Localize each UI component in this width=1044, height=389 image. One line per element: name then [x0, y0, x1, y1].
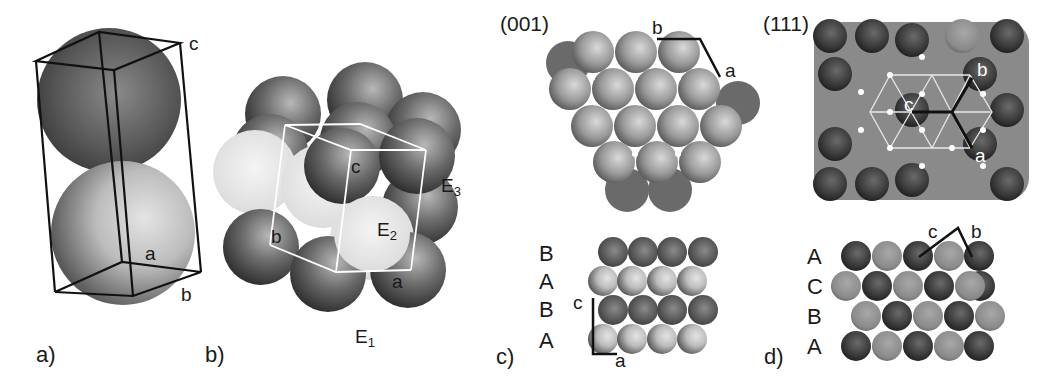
panel-b-face-e1: E1 [355, 327, 375, 352]
panel-c-plane-label: (001) [500, 13, 549, 35]
panel-c-side-spheres [588, 237, 718, 354]
panel-c-stack-2: A [539, 271, 554, 293]
panel-b-spheres [213, 62, 461, 312]
panel-c-001-spheres [546, 31, 760, 212]
panel-d-axis-c: c [904, 95, 914, 114]
panel-label-b: b) [205, 344, 225, 366]
panel-label-c: c) [496, 346, 514, 368]
panel-b-face-e3: E3 [441, 176, 461, 201]
panel-d-stack-4: A [807, 336, 822, 358]
panel-c-stack-1: B [539, 243, 554, 265]
panel-label-d: d) [764, 346, 784, 368]
panel-c-side-axis-c: c [573, 293, 583, 312]
panel-d-stack-3: B [807, 306, 822, 328]
panel-c-axis-a: a [725, 61, 736, 80]
panel-c-stack-4: A [539, 330, 554, 352]
panel-d-side-axis-b: b [971, 222, 982, 241]
panel-d-side-axis-c: c [928, 222, 938, 241]
panel-d-axis-a: a [975, 146, 986, 165]
panel-a-axis-c: c [189, 34, 199, 53]
panel-d-side-spheres [831, 241, 1005, 361]
panel-c-stack-3: B [539, 299, 554, 321]
panel-d-111-spheres [813, 19, 1029, 201]
panel-d-stack-2: C [807, 276, 823, 298]
panel-a-axis-b: b [181, 285, 192, 304]
panel-c-side-axis-a: a [615, 351, 626, 370]
panel-d-plane-label: (111) [763, 13, 809, 35]
panel-c-axis-b: b [652, 18, 663, 37]
panel-d-stack-1: A [807, 246, 822, 268]
panel-b-axis-c: c [351, 157, 361, 176]
panel-b-axis-b: b [271, 227, 282, 246]
panel-a-axis-a: a [145, 244, 156, 263]
panel-d-axis-b: b [977, 60, 988, 79]
panel-b-axis-a: a [392, 272, 403, 291]
panel-label-a: a) [36, 344, 56, 366]
figure-canvas [0, 0, 1044, 389]
panel-b-face-e2: E2 [377, 220, 397, 245]
